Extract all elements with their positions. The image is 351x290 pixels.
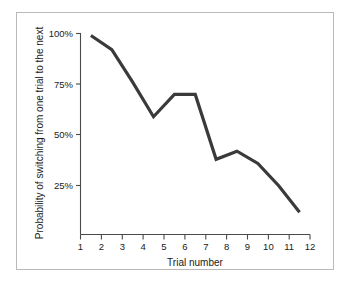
x-tick-label-8: 8: [224, 241, 229, 252]
x-tick-label-1: 1: [78, 241, 83, 252]
y-axis-title: Probability of switching from one trial …: [34, 27, 45, 240]
y-tick-label-75: 75%: [54, 79, 74, 90]
x-tick-label-4: 4: [140, 241, 145, 252]
x-tick-label-7: 7: [203, 241, 208, 252]
x-tick-label-2: 2: [99, 241, 104, 252]
axis-group: [81, 33, 311, 235]
x-axis-title: Trial number: [167, 257, 223, 268]
x-tick-label-5: 5: [161, 241, 166, 252]
x-tick-label-12: 12: [305, 241, 316, 252]
x-tick-marks: [81, 235, 311, 240]
x-tick-label-10: 10: [263, 241, 274, 252]
x-tick-label-3: 3: [120, 241, 125, 252]
x-tick-label-9: 9: [245, 241, 250, 252]
x-tick-label-6: 6: [182, 241, 187, 252]
y-tick-labels: 100% 75% 50% 25%: [49, 28, 74, 191]
line-chart: 100% 75% 50% 25% 1 2 3 4 5 6 7 8 9 10 11…: [0, 0, 351, 290]
data-series-line: [91, 36, 300, 213]
y-tick-label-100: 100%: [49, 28, 74, 39]
x-tick-labels: 1 2 3 4 5 6 7 8 9 10 11 12: [78, 241, 315, 252]
y-tick-label-25: 25%: [54, 180, 74, 191]
y-tick-label-50: 50%: [54, 129, 74, 140]
x-tick-label-11: 11: [284, 241, 294, 252]
